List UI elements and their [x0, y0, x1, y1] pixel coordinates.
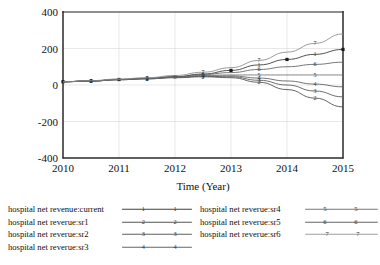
series-marker-6: 6	[258, 66, 261, 72]
y-tick-label-0: 0	[53, 79, 59, 91]
legend-marker-5: 5	[323, 205, 326, 212]
legend-sample-sr1: 2 2	[120, 216, 194, 229]
x-axis-title: Time (Year)	[176, 180, 230, 193]
legend-label-sr1: hospital net reverue:sr1	[8, 216, 120, 229]
legend-marker-3b: 3	[173, 230, 176, 237]
legend-column-right: hospital net reverue:sr4 5 5 hospital ne…	[200, 203, 380, 241]
series-marker-7: 7	[258, 57, 261, 63]
legend-marker-2b: 2	[173, 218, 176, 225]
series-marker-4: 4	[314, 81, 317, 87]
legend-sample-sr6: 7 7	[303, 228, 380, 241]
legend-item-sr6[interactable]: hospital net reverue:sr6 7 7	[200, 228, 380, 241]
legend-marker-2: 2	[142, 218, 145, 225]
y-tick-label-neg200: -200	[38, 116, 59, 128]
datapoint-marker	[341, 48, 344, 51]
legend-label-sr5: hospital net reverue:sr5	[200, 216, 303, 229]
legend-item-sr3[interactable]: hospital net reverue:sr3 4 4	[8, 241, 194, 254]
legend-label-sr2: hospital net reverue:sr2	[8, 228, 120, 241]
chart-figure: 400 200 0 -200 -400 2010 2011 2012 2013 …	[0, 0, 380, 265]
x-tick-label-2012: 2012	[164, 162, 186, 174]
y-axis-tick-labels: 400 200 0 -200 -400	[38, 6, 59, 164]
series-marker-7: 7	[90, 78, 93, 84]
series-marker-7: 7	[202, 69, 205, 75]
series-marker-6: 6	[314, 61, 317, 67]
chart-legend: hospital net revenue:current 1 1 hospita…	[8, 203, 374, 261]
legend-sample-sr5: 6 6	[303, 216, 380, 229]
legend-column-left: hospital net revenue:current 1 1 hospita…	[8, 203, 194, 253]
x-tick-label-2011: 2011	[108, 162, 130, 174]
legend-marker-3: 3	[142, 230, 145, 237]
legend-marker-1b: 1	[173, 205, 176, 212]
x-axis-tick-labels: 2010 2011 2012 2013 2014 2015	[52, 162, 355, 174]
series-marker-7: 7	[146, 75, 149, 81]
series-marker-1: 1	[314, 51, 317, 57]
legend-marker-5b: 5	[354, 205, 357, 212]
legend-sample-current: 1 1	[120, 203, 194, 216]
legend-item-sr2[interactable]: hospital net reverue:sr2 3 3	[8, 228, 194, 241]
x-tick-label-2014: 2014	[276, 162, 299, 174]
legend-item-sr1[interactable]: hospital net reverue:sr1 2 2	[8, 216, 194, 229]
x-tick-label-2013: 2013	[220, 162, 243, 174]
legend-item-sr4[interactable]: hospital net reverue:sr4 5 5	[200, 203, 380, 216]
legend-label-sr3: hospital net reverue:sr3	[8, 241, 120, 254]
y-tick-label-400: 400	[42, 6, 59, 18]
x-tick-label-2015: 2015	[332, 162, 355, 174]
series-marker-5: 5	[258, 72, 261, 78]
legend-marker-1: 1	[142, 205, 145, 212]
legend-sample-sr4: 5 5	[303, 203, 380, 216]
legend-item-sr5[interactable]: hospital net reverue:sr5 6 6	[200, 216, 380, 229]
series-marker-3: 3	[314, 88, 317, 94]
legend-sample-sr3: 4 4	[120, 241, 194, 254]
legend-label-sr6: hospital net reverue:sr6	[200, 228, 303, 241]
series-marker-2: 2	[314, 95, 317, 101]
datapoint-marker	[285, 58, 288, 61]
y-tick-label-200: 200	[42, 43, 59, 55]
series-marker-5: 5	[314, 72, 317, 78]
legend-sample-sr2: 3 3	[120, 228, 194, 241]
legend-item-current[interactable]: hospital net revenue:current 1 1	[8, 203, 194, 216]
series-marker-7: 7	[314, 40, 317, 46]
legend-label-sr4: hospital net reverue:sr4	[200, 203, 303, 216]
x-tick-label-2010: 2010	[52, 162, 75, 174]
datapoint-marker	[229, 69, 232, 72]
legend-label-current: hospital net revenue:current	[8, 203, 120, 216]
